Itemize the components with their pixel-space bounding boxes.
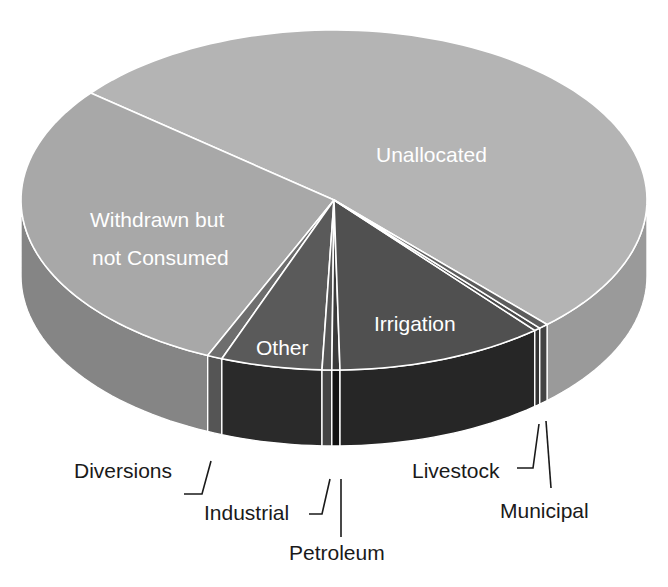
leader-industrial (309, 479, 330, 514)
label-municipal: Municipal (500, 499, 589, 522)
label-withdrawn-line2: not Consumed (92, 246, 229, 269)
side-industrial (322, 370, 332, 446)
leader-livestock (517, 424, 539, 468)
label-diversions: Diversions (74, 459, 172, 482)
leader-municipal (546, 421, 551, 488)
side-municipal (540, 325, 547, 405)
pie-chart-3d: Unallocated Withdrawn but not Consumed O… (0, 0, 668, 587)
label-unallocated: Unallocated (376, 143, 487, 166)
label-industrial: Industrial (204, 501, 289, 524)
leader-diversions (184, 461, 211, 494)
side-petroleum (332, 370, 340, 446)
label-livestock: Livestock (412, 459, 500, 482)
pie-top-faces (21, 30, 647, 370)
label-other: Other (256, 336, 309, 359)
label-irrigation: Irrigation (374, 312, 456, 335)
side-other (222, 359, 322, 446)
outside-labels: Diversions Industrial Petroleum Livestoc… (74, 459, 589, 564)
side-livestock (535, 328, 540, 406)
label-withdrawn-line1: Withdrawn but (90, 208, 224, 231)
label-petroleum: Petroleum (289, 541, 385, 564)
side-diversions (208, 356, 222, 435)
